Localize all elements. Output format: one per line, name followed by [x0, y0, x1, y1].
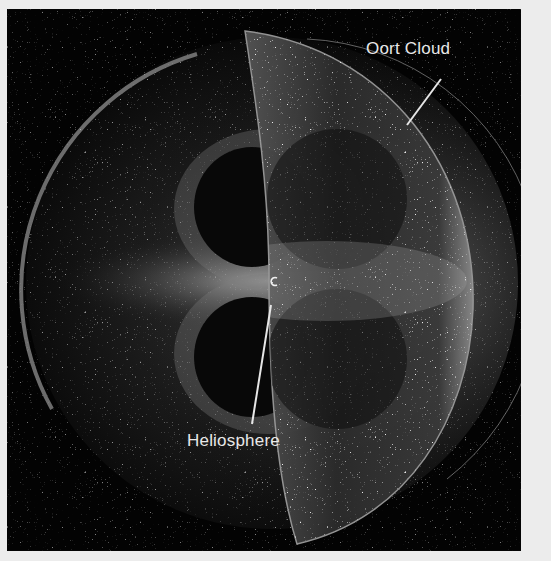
- heliosphere-label: Heliosphere: [187, 431, 280, 451]
- diagram-frame: Oort Cloud Heliosphere: [7, 9, 521, 551]
- oort-cloud-illustration: [7, 9, 521, 551]
- oort-cloud-label: Oort Cloud: [366, 39, 450, 59]
